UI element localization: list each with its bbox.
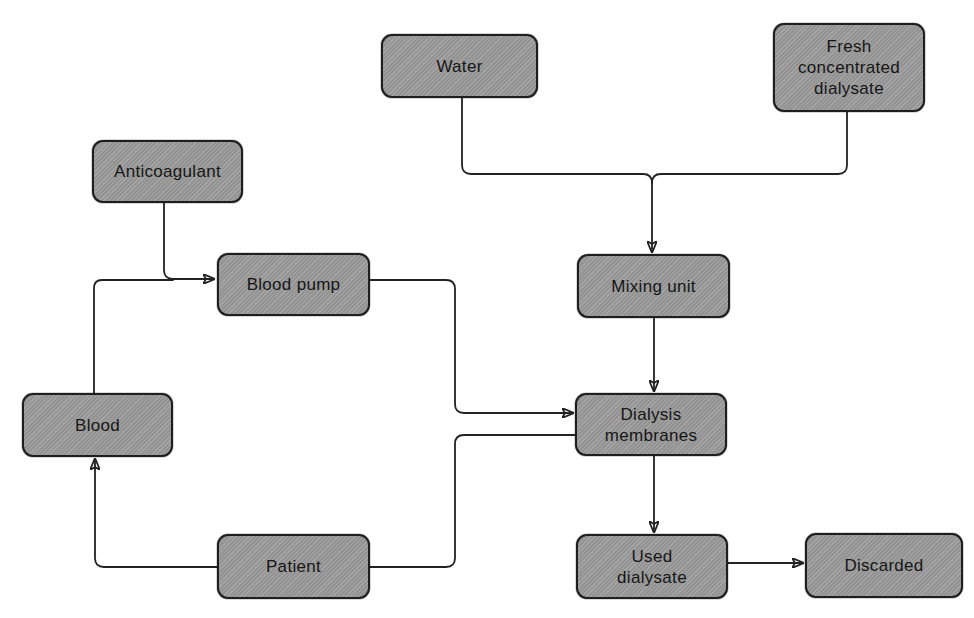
node-discarded-label: Discarded [844,555,923,576]
node-blood: Blood [22,393,173,457]
node-dialysis-membranes-label: Dialysis membranes [605,404,697,446]
node-mixing-unit-label: Mixing unit [611,276,696,297]
node-dialysis-membranes: Dialysis membranes [575,393,727,456]
node-anticoagulant-label: Anticoagulant [114,161,221,182]
connector-water-to-mixing [462,98,652,183]
node-patient-label: Patient [266,556,321,577]
node-blood-pump-label: Blood pump [247,274,341,295]
node-water: Water [381,34,538,98]
node-fresh-concentrated-dialysate-label: Fresh concentrated dialysate [798,36,900,99]
connector-anticoagulant-to-blood-pump [164,203,214,279]
node-patient: Patient [217,534,370,599]
node-blood-pump: Blood pump [217,253,370,316]
node-mixing-unit: Mixing unit [577,254,730,318]
connector-patient-to-blood [95,459,217,567]
node-anticoagulant: Anticoagulant [92,140,243,203]
node-fresh-concentrated-dialysate: Fresh concentrated dialysate [773,23,925,112]
node-water-label: Water [436,56,482,77]
node-blood-label: Blood [75,415,120,436]
connector-fresh-dialysate-to-mixing [652,112,847,183]
connector-blood-pump-to-membranes [370,280,573,413]
connector-blood-to-blood-pump [94,280,173,393]
connector-membranes-to-patient [370,435,575,567]
node-discarded: Discarded [805,533,963,598]
node-used-dialysate: Used dialysate [576,534,728,599]
node-used-dialysate-label: Used dialysate [617,546,687,588]
hemodialysis-flow-diagram: Water Fresh concentrated dialysate Antic… [0,0,974,618]
